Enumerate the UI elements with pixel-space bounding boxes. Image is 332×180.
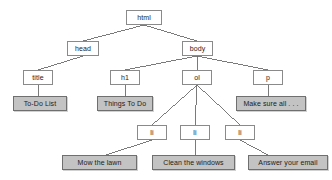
text-node-make: Make sure all . . .	[236, 96, 306, 111]
tree-edge-ol-to-li2	[195, 85, 197, 125]
tree-edge-body-to-p	[197, 56, 268, 70]
tree-edge-html-to-body	[144, 25, 197, 41]
element-node-html: html	[126, 10, 162, 25]
node-label: head	[75, 45, 91, 52]
tree-edge-li3-to-answer	[240, 140, 268, 155]
tree-edge-ol-to-li3	[197, 85, 240, 125]
element-node-li1: li	[137, 125, 167, 140]
node-label: Make sure all . . .	[243, 100, 298, 107]
text-node-things: Things To Do	[97, 96, 153, 111]
node-label: body	[190, 45, 206, 52]
text-node-clean: Clean the windows	[152, 155, 235, 170]
node-label: Mow the lawn	[78, 159, 122, 166]
node-label: h1	[121, 74, 129, 81]
tree-edge-ol-to-li1	[152, 85, 197, 125]
element-node-li3: li	[225, 125, 255, 140]
node-label: Things To Do	[104, 100, 146, 107]
node-label: li	[238, 129, 241, 136]
dom-tree-diagram: htmlheadbodytitleh1olpTo-Do ListThings T…	[0, 0, 332, 180]
tree-edge-html-to-head	[83, 25, 144, 41]
tree-edge-body-to-h1	[125, 56, 197, 70]
node-label: ol	[194, 74, 200, 81]
node-label: p	[266, 74, 270, 81]
node-label: li	[193, 129, 196, 136]
text-node-mow: Mow the lawn	[62, 155, 137, 170]
element-node-body: body	[182, 41, 213, 56]
node-label: Answer your email	[258, 159, 317, 166]
tree-edge-head-to-title	[38, 56, 83, 70]
element-node-ol: ol	[182, 70, 212, 85]
node-label: title	[32, 74, 43, 81]
node-label: Clean the windows	[163, 159, 223, 166]
tree-edge-li1-to-mow	[106, 140, 152, 155]
element-node-h1: h1	[110, 70, 140, 85]
text-node-todo: To-Do List	[13, 96, 67, 111]
node-label: html	[137, 14, 151, 21]
element-node-p: p	[253, 70, 283, 85]
edge-layer	[0, 0, 332, 180]
text-node-answer: Answer your email	[248, 155, 328, 170]
element-node-li2: li	[180, 125, 210, 140]
node-label: li	[150, 129, 153, 136]
element-node-head: head	[67, 41, 99, 56]
node-label: To-Do List	[24, 100, 57, 107]
element-node-title: title	[23, 70, 53, 85]
